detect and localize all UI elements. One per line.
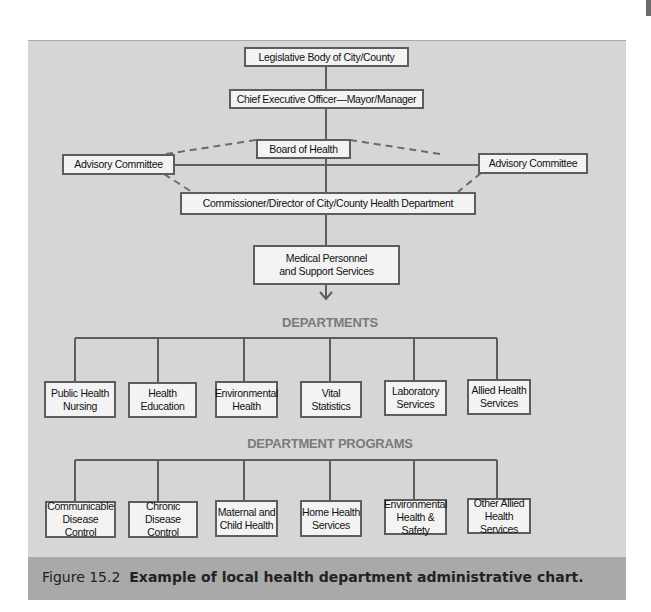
programs-heading: DEPARTMENT PROGRAMS (180, 436, 480, 451)
node-line2: Child Health (220, 519, 274, 532)
node-line1: Vital (322, 387, 341, 400)
advisory-committee-left-node: Advisory Committee (62, 154, 175, 175)
program-node: Maternal and Child Health (215, 500, 278, 537)
node-line1: Other Allied (474, 497, 525, 510)
advisory-committee-right-node: Advisory Committee (478, 153, 588, 174)
node-line1: Laboratory (392, 385, 439, 398)
node-line2: Disease Control (130, 513, 196, 539)
node-line2: Services (397, 398, 435, 411)
node-line2: Health & Safety (386, 511, 445, 537)
figure-caption-text: Example of local health department admin… (129, 569, 583, 585)
department-node: Public Health Nursing (44, 381, 116, 418)
departments-heading: DEPARTMENTS (200, 315, 460, 330)
node-line2: Health (232, 400, 261, 413)
department-node: Vital Statistics (300, 381, 362, 418)
department-node: Allied Health Services (467, 379, 531, 415)
figure-caption: Figure 15.2 Example of local health depa… (42, 569, 584, 585)
node-line2: Services (480, 397, 518, 410)
medical-personnel-node: Medical Personnel and Support Services (253, 245, 400, 285)
node-line2: Education (140, 400, 184, 413)
node-line1: Home Health (302, 506, 360, 519)
program-node: Home Health Services (300, 500, 362, 537)
node-line1: Environmental (215, 387, 278, 400)
node-line2: Services (312, 519, 350, 532)
node-line1: Chronic (146, 500, 180, 513)
figure-label: Figure 15.2 (42, 569, 120, 585)
department-node: Laboratory Services (384, 380, 447, 416)
node-line1: Maternal and (218, 506, 276, 519)
medical-line2: and Support Services (279, 265, 373, 278)
node-line2: Disease Control (47, 513, 114, 539)
medical-line1: Medical Personnel (286, 252, 367, 265)
node-line1: Allied Health (471, 384, 526, 397)
figure-caption-band: Figure 15.2 Example of local health depa… (28, 557, 626, 600)
node-line2: Health Services (469, 510, 529, 536)
node-line1: Communicable (47, 500, 113, 513)
board-of-health-node: Board of Health (256, 139, 351, 159)
program-node: Chronic Disease Control (128, 501, 198, 538)
program-node: Environmental Health & Safety (384, 499, 447, 535)
ceo-node: Chief Executive Officer—Mayor/Manager (229, 89, 424, 109)
node-line2: Statistics (311, 400, 350, 413)
node-line2: Nursing (63, 400, 97, 413)
commissioner-node: Commissioner/Director of City/County Hea… (180, 192, 476, 215)
node-line1: Public Health (51, 387, 109, 400)
node-line1: Environmental (384, 498, 447, 511)
program-node: Other Allied Health Services (467, 498, 531, 534)
node-line1: Health (148, 387, 177, 400)
department-node: Health Education (128, 382, 197, 418)
department-node: Environmental Health (215, 381, 278, 418)
legislative-body-node: Legislative Body of City/County (244, 47, 409, 67)
program-node: Communicable Disease Control (45, 501, 116, 538)
